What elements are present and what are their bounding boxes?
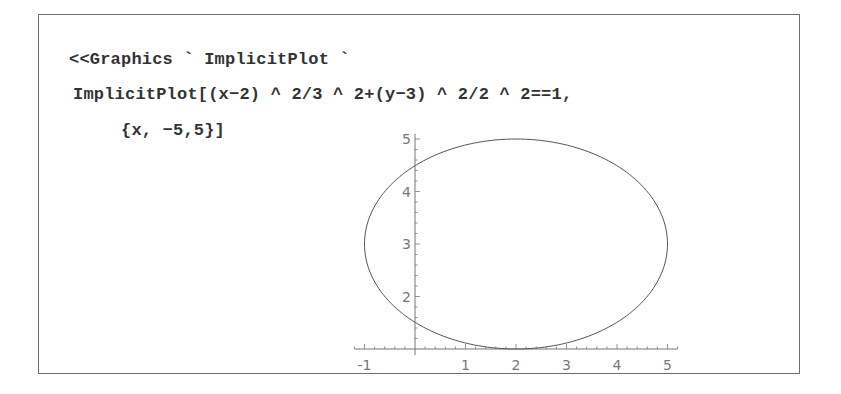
x-tick-label: 4	[613, 357, 622, 373]
y-tick-label: 5	[402, 131, 411, 147]
tick-labels: -1123452345	[358, 131, 672, 373]
x-tick-label: 2	[512, 357, 521, 373]
y-tick-label: 2	[402, 289, 411, 305]
y-tick-label: 4	[402, 184, 411, 200]
x-tick-label: 1	[461, 357, 470, 373]
x-tick-label: -1	[358, 357, 372, 373]
x-tick-label: 3	[562, 357, 571, 373]
y-tick-label: 3	[402, 236, 411, 252]
x-tick-label: 5	[663, 357, 672, 373]
implicit-plot-graphic: -1123452345	[0, 0, 841, 394]
